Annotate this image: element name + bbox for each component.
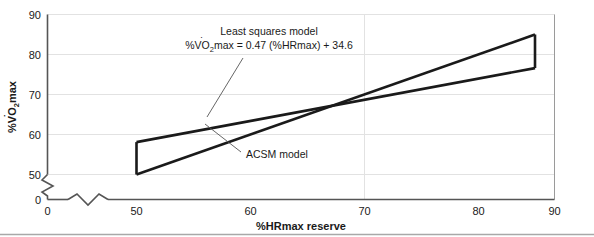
x-axis-title: %HRmax reserve	[256, 220, 346, 232]
x-tick-label-0: 0	[44, 205, 50, 217]
y-axis-title-max: max	[6, 80, 18, 103]
figure-container: 90 80 70 60 50 0 0 50 60 70 80 90 %HRmax…	[0, 0, 594, 237]
x-tick-label-50: 50	[130, 205, 142, 217]
y-tick-label-90: 90	[29, 9, 41, 21]
y-tick-label-60: 60	[29, 129, 41, 141]
y-tick-label-70: 70	[29, 89, 41, 101]
x-tick-label-80: 80	[472, 205, 484, 217]
chart-canvas: 90 80 70 60 50 0 0 50 60 70 80 90 %HRmax…	[0, 0, 594, 237]
equation-v: V	[195, 39, 202, 51]
equation-rest: max = 0.47 (%HRmax) + 34.6	[214, 39, 353, 51]
x-tick-label-60: 60	[244, 205, 256, 217]
y-tick-label-50: 50	[29, 169, 41, 181]
equation-o: O	[202, 39, 210, 51]
annotation-acsm-model: ACSM model	[246, 148, 308, 160]
annotation-least-squares-title: Least squares model	[220, 25, 317, 37]
y-tick-label-0: 0	[35, 194, 41, 206]
x-tick-label-70: 70	[358, 205, 370, 217]
x-tick-label-90: 90	[548, 205, 560, 217]
y-axis-title-percent: %	[6, 123, 18, 133]
equation-percent: %	[185, 39, 194, 51]
y-tick-label-80: 80	[29, 49, 41, 61]
